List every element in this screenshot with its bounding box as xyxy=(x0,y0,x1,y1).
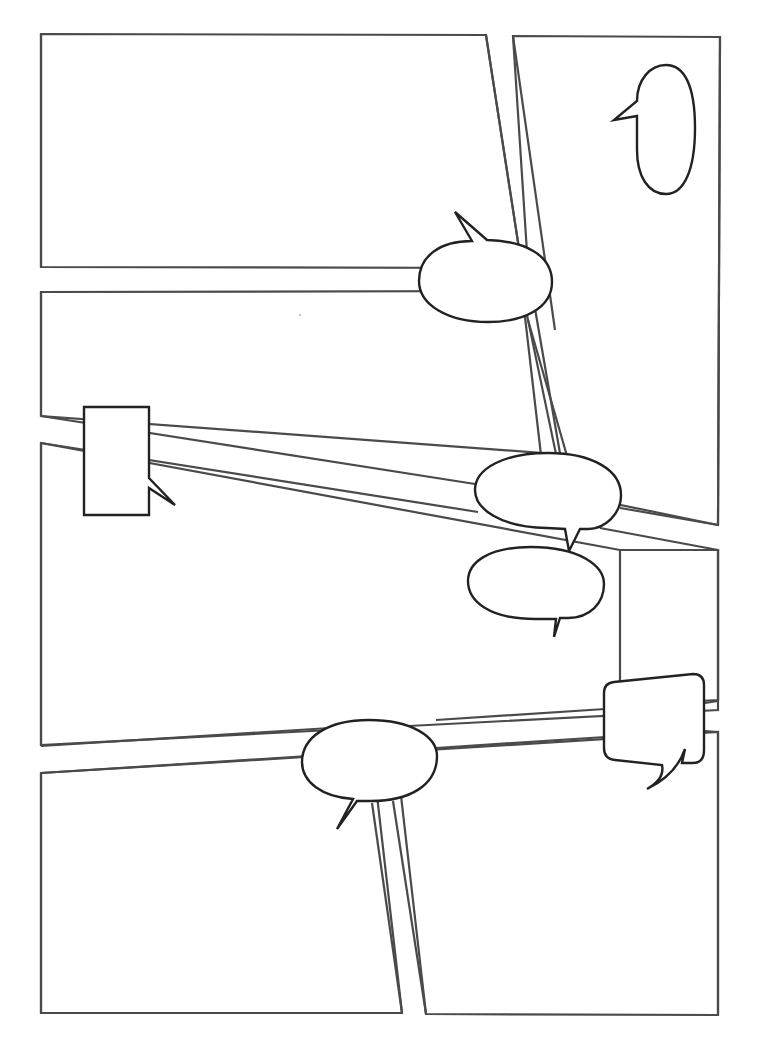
comic-page xyxy=(0,0,762,1059)
panel-1[interactable] xyxy=(41,34,522,268)
speck-dot xyxy=(299,314,301,316)
